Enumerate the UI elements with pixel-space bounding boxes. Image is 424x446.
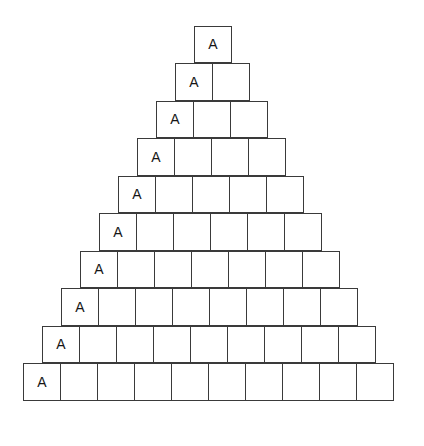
pyramid-block (265, 251, 303, 289)
pyramid-row: A (42, 326, 375, 364)
pyramid-block (227, 326, 265, 364)
pyramid-block (173, 213, 211, 251)
pyramid-block (172, 288, 210, 326)
pyramid-block (248, 138, 286, 176)
pyramid-block (245, 363, 283, 401)
pyramid-block (212, 63, 250, 101)
pyramid-row: A (137, 138, 285, 176)
pyramid-block (302, 251, 340, 289)
pyramid-block (60, 363, 98, 401)
pyramid-block (230, 101, 268, 139)
pyramid-block (134, 363, 172, 401)
pyramid-block (193, 101, 231, 139)
pyramid-block (301, 326, 339, 364)
pyramid-block (192, 176, 230, 214)
pyramid-block-labeled: A (80, 251, 118, 289)
pyramid-block (228, 251, 266, 289)
pyramid-block (155, 176, 193, 214)
pyramid-block (266, 176, 304, 214)
block-label: A (113, 225, 122, 239)
pyramid-row: A (99, 213, 321, 251)
pyramid-block (209, 288, 247, 326)
pyramid-block (135, 288, 173, 326)
block-label: A (170, 112, 179, 126)
pyramid-row: A (194, 26, 231, 64)
pyramid-block (319, 363, 357, 401)
pyramid-block (153, 326, 191, 364)
pyramid-block-labeled: A (194, 26, 232, 64)
pyramid-block (117, 251, 155, 289)
pyramid-block (116, 326, 154, 364)
pyramid-block (154, 251, 192, 289)
block-label: A (94, 262, 103, 276)
pyramid-block-labeled: A (23, 363, 61, 401)
pyramid-block (191, 251, 229, 289)
pyramid-block (247, 213, 285, 251)
pyramid-block (246, 288, 284, 326)
block-label: A (56, 337, 65, 351)
pyramid-block (136, 213, 174, 251)
block-label: A (208, 37, 217, 51)
pyramid-block (211, 138, 249, 176)
block-label: A (189, 75, 198, 89)
block-pyramid-figure: AAAAAAAAAA (0, 0, 424, 446)
pyramid-block (210, 213, 248, 251)
block-label: A (37, 375, 46, 389)
pyramid-block (283, 288, 321, 326)
pyramid-block (284, 213, 322, 251)
pyramid-block (174, 138, 212, 176)
pyramid-block (320, 288, 358, 326)
pyramid-block (97, 363, 135, 401)
pyramid-block (356, 363, 394, 401)
pyramid-block (171, 363, 209, 401)
pyramid-block-labeled: A (99, 213, 137, 251)
pyramid-block-labeled: A (156, 101, 194, 139)
block-label: A (132, 187, 141, 201)
block-label: A (151, 150, 160, 164)
pyramid-row: A (23, 363, 393, 401)
pyramid-block-labeled: A (137, 138, 175, 176)
pyramid-block (190, 326, 228, 364)
pyramid-block-labeled: A (175, 63, 213, 101)
pyramid-row: A (61, 288, 357, 326)
pyramid-block-labeled: A (118, 176, 156, 214)
block-label: A (75, 300, 84, 314)
pyramid-block (79, 326, 117, 364)
pyramid-row: A (156, 101, 267, 139)
pyramid-row: A (80, 251, 339, 289)
pyramid-block (338, 326, 376, 364)
pyramid-row: A (118, 176, 303, 214)
pyramid-block (98, 288, 136, 326)
pyramid-block (264, 326, 302, 364)
pyramid-row: A (175, 63, 249, 101)
pyramid-block (229, 176, 267, 214)
pyramid-block (208, 363, 246, 401)
pyramid-block-labeled: A (42, 326, 80, 364)
pyramid-block-labeled: A (61, 288, 99, 326)
pyramid-block (282, 363, 320, 401)
